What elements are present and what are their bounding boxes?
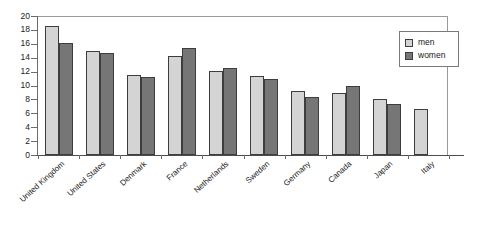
x-axis-tick: [449, 155, 450, 159]
y-axis-tick: [31, 58, 37, 59]
x-axis-category-label: United Kingdom: [0, 160, 66, 230]
y-axis-tick: [31, 141, 37, 142]
x-axis-tick: [326, 155, 327, 159]
x-axis-tick: [38, 155, 39, 159]
y-axis-tick: [31, 72, 37, 73]
y-axis-tick: [31, 16, 37, 17]
x-axis-tick: [285, 155, 286, 159]
y-axis-tick: [31, 155, 37, 156]
x-axis-tick: [79, 155, 80, 159]
y-axis-tick: [31, 127, 37, 128]
legend-label-men: men: [418, 38, 435, 47]
y-axis-tick: [31, 113, 37, 114]
legend-item-men: men: [405, 36, 453, 49]
x-axis-tick: [202, 155, 203, 159]
x-axis-tick: [244, 155, 245, 159]
legend-swatch-men-icon: [405, 39, 413, 47]
y-axis-tick: [31, 44, 37, 45]
legend-swatch-women-icon: [405, 52, 413, 60]
x-axis-tick: [161, 155, 162, 159]
y-axis-tick: [31, 99, 37, 100]
legend-item-women: women: [405, 49, 453, 62]
x-axis-tick: [408, 155, 409, 159]
legend-label-women: women: [418, 51, 445, 60]
chart-legend: men women: [399, 31, 459, 67]
y-axis-tick: [31, 86, 37, 87]
x-axis-tick: [120, 155, 121, 159]
x-axis-tick: [367, 155, 368, 159]
bar-chart: 20181614121086420 United KingdomUnited S…: [0, 0, 488, 230]
y-axis-tick: [31, 30, 37, 31]
